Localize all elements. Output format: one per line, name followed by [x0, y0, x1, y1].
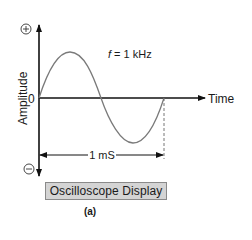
y-axis-label: Amplitude — [16, 71, 30, 125]
frequency-label: f = 1 kHz — [108, 48, 152, 60]
positive-icon — [21, 24, 31, 34]
negative-icon — [24, 164, 34, 174]
oscilloscope-display-label: Oscilloscope Display — [45, 182, 167, 200]
x-axis-label: Time — [208, 92, 235, 106]
period-label: 1 mS — [89, 149, 115, 161]
figure-caption: (a) — [80, 206, 100, 217]
